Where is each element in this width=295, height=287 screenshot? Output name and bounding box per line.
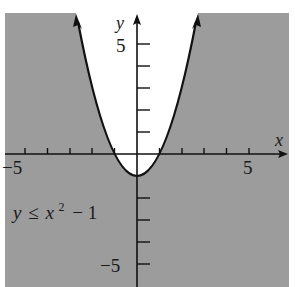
x-tick-label-neg5: −5: [2, 157, 22, 178]
ineq-x: x: [44, 202, 54, 223]
ineq-y: y: [11, 202, 22, 223]
ineq-le: ≤: [28, 202, 38, 223]
ineq-exponent: 2: [59, 200, 65, 214]
y-tick-label-pos5: 5: [116, 35, 126, 56]
y-tick-label-neg5: −5: [100, 255, 120, 276]
x-tick-label-pos5: 5: [243, 157, 253, 178]
y-axis-label: y: [114, 13, 124, 33]
x-axis-label: x: [274, 130, 283, 150]
ineq-rest: − 1: [72, 202, 97, 223]
inequality-graph: x y −5 5 5 −5 y ≤ x 2 − 1: [0, 0, 295, 287]
